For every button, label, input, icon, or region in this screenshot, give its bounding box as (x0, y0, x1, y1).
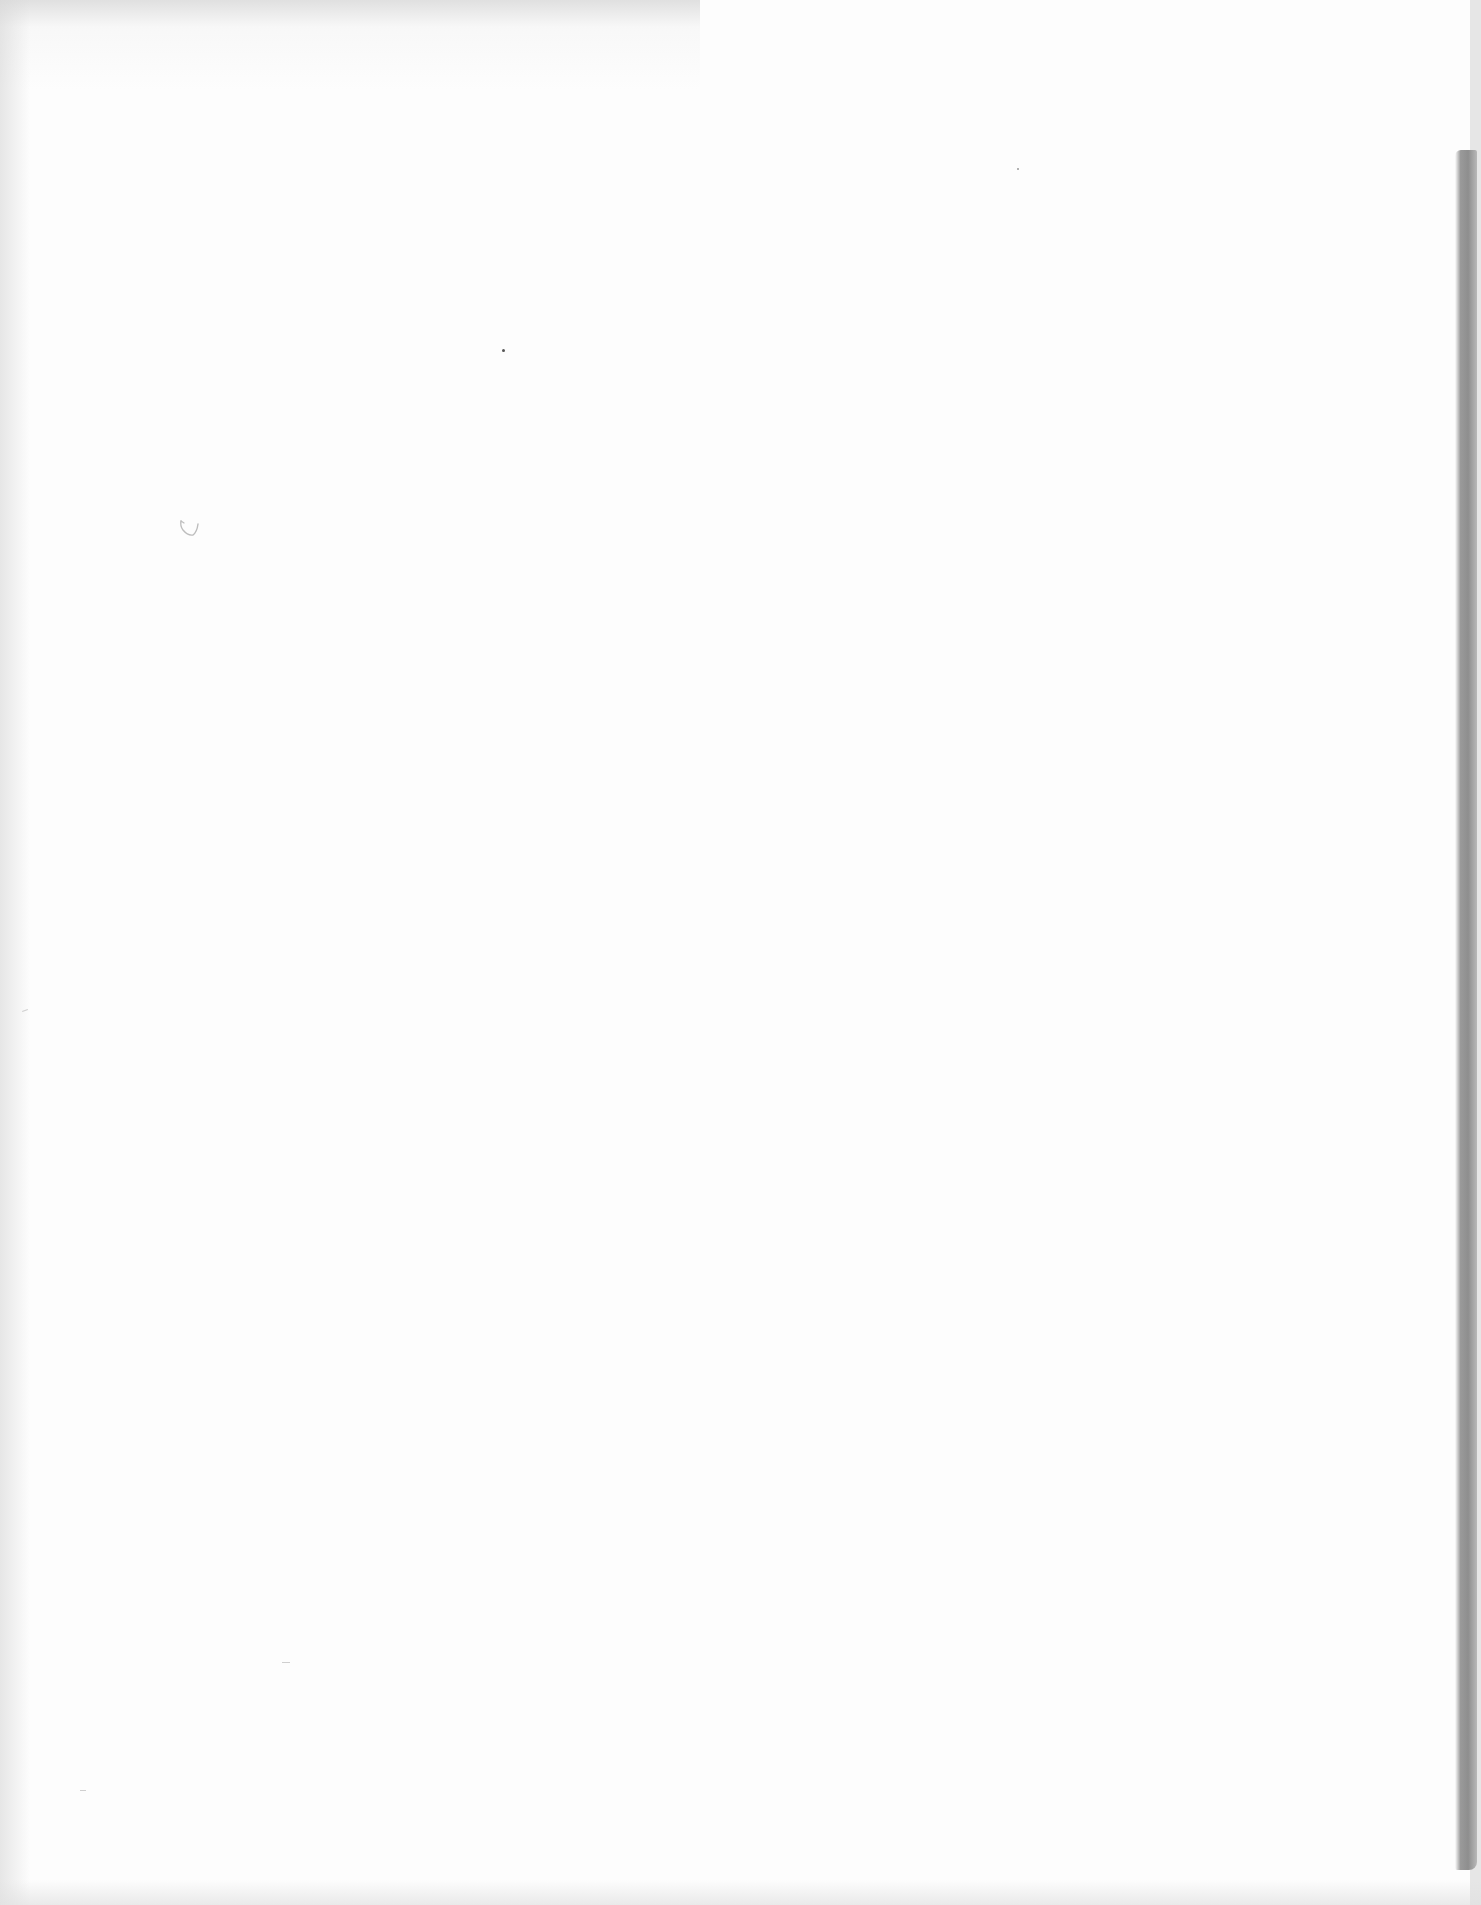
scan-bottom-shadow (0, 1880, 1481, 1905)
paper-torn-edge (1455, 150, 1477, 1870)
speck (502, 349, 505, 352)
faint-mark (282, 1662, 290, 1663)
speck (1017, 168, 1019, 170)
scan-left-shadow (0, 0, 30, 1905)
pencil-mark-icon (178, 518, 202, 540)
blank-page (0, 0, 1481, 1905)
scan-top-shadow (0, 0, 700, 90)
faint-mark (80, 1790, 86, 1791)
